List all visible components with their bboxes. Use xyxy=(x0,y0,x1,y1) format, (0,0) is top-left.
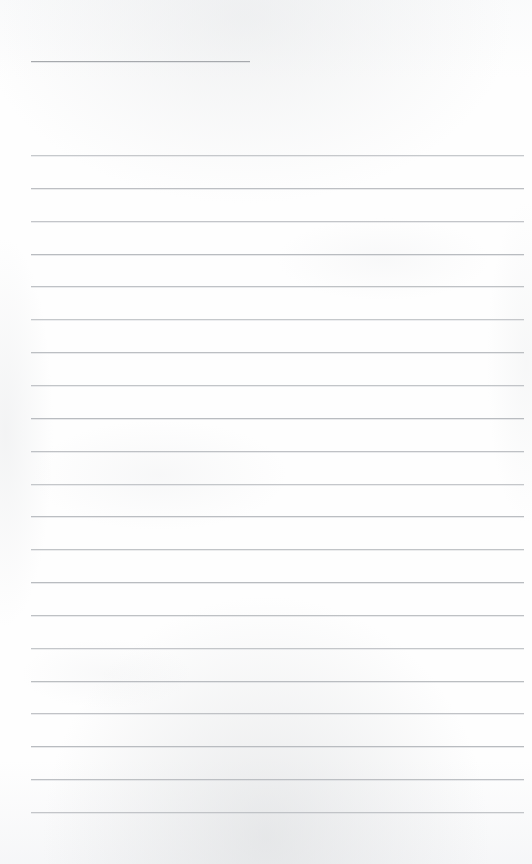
ruled-line xyxy=(31,418,524,419)
ruled-line xyxy=(31,648,524,649)
ruled-lines-layer xyxy=(0,0,532,864)
ruled-line xyxy=(31,155,524,156)
ruled-line xyxy=(31,254,524,255)
ruled-line xyxy=(31,188,524,189)
ruled-line xyxy=(31,385,524,386)
ruled-line xyxy=(31,286,524,287)
ruled-line xyxy=(31,484,524,485)
scanned-page xyxy=(0,0,532,864)
ruled-line xyxy=(31,812,524,813)
ruled-line xyxy=(31,615,524,616)
ruled-line xyxy=(31,451,524,452)
ruled-line xyxy=(31,681,524,682)
title-underline-rule xyxy=(31,61,250,62)
ruled-line xyxy=(31,582,524,583)
ruled-line xyxy=(31,516,524,517)
ruled-line xyxy=(31,549,524,550)
ruled-line xyxy=(31,221,524,222)
ruled-line xyxy=(31,746,524,747)
ruled-line xyxy=(31,319,524,320)
ruled-line xyxy=(31,713,524,714)
ruled-line xyxy=(31,779,524,780)
ruled-line xyxy=(31,352,524,353)
